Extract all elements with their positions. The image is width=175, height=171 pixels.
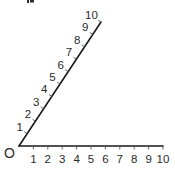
- slanted-tick: [32, 119, 35, 121]
- slanted-tick-label: 9: [82, 21, 88, 33]
- horizontal-tick-label: 6: [102, 153, 108, 165]
- slanted-tick-label: 10: [85, 9, 98, 21]
- horizontal-ray: 12345678910: [19, 146, 169, 165]
- slanted-tick: [65, 70, 68, 72]
- slanted-tick-label: 6: [57, 59, 63, 71]
- slanted-tick-label: 8: [74, 34, 80, 46]
- slanted-tick: [90, 32, 93, 34]
- slanted-tick: [24, 132, 27, 134]
- slanted-tick-label: 5: [49, 71, 55, 83]
- slanted-tick: [49, 94, 52, 96]
- horizontal-tick-label: 5: [88, 153, 94, 165]
- slanted-ray-labels: 12345678910: [16, 9, 97, 133]
- slanted-tick: [82, 45, 85, 47]
- horizontal-tick-label: 10: [157, 153, 170, 165]
- top-cutoff-text-fragment: [27, 0, 34, 3]
- horizontal-tick-label: 3: [59, 153, 65, 165]
- angle-diagram-canvas: 12345678910 12345678910 O: [0, 0, 175, 171]
- slanted-ray: 12345678910: [16, 9, 101, 146]
- horizontal-tick-label: 4: [73, 153, 80, 165]
- horizontal-tick-label: 1: [30, 153, 36, 165]
- slanted-tick-label: 1: [16, 121, 22, 133]
- slanted-ray-ticks: [24, 20, 101, 134]
- horizontal-tick-label: 9: [145, 153, 151, 165]
- slanted-tick: [57, 82, 60, 84]
- horizontal-tick-label: 7: [117, 153, 123, 165]
- origin-label: O: [4, 145, 15, 161]
- slanted-tick-label: 4: [41, 83, 48, 95]
- angle-diagram: 12345678910 12345678910 O: [0, 0, 175, 171]
- slanted-tick-label: 2: [25, 108, 31, 120]
- slanted-tick: [41, 107, 44, 109]
- slanted-tick: [98, 20, 101, 22]
- slanted-tick: [73, 57, 76, 59]
- horizontal-ray-labels: 12345678910: [30, 153, 169, 165]
- horizontal-tick-label: 2: [45, 153, 51, 165]
- slanted-tick-label: 3: [33, 96, 39, 108]
- slanted-tick-label: 7: [66, 46, 72, 58]
- horizontal-tick-label: 8: [131, 153, 137, 165]
